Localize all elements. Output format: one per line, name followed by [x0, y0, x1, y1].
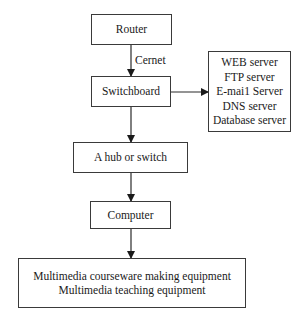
servers-node: WEB server FTP server E-mai1 Server DNS … [208, 51, 291, 132]
router-node: Router [91, 14, 172, 45]
router-label: Router [116, 22, 147, 37]
server-line-email: E-mai1 Server [216, 84, 283, 99]
hub-node: A hub or switch [73, 142, 188, 173]
server-line-dns: DNS server [223, 99, 277, 114]
switchboard-label: Switchboard [102, 84, 160, 99]
cernet-edge-label: Cernet [135, 54, 166, 66]
equipment-line-teaching: Multimedia teaching equipment [59, 283, 206, 298]
server-line-ftp: FTP server [224, 70, 274, 85]
hub-label: A hub or switch [94, 150, 167, 165]
switchboard-node: Switchboard [91, 76, 171, 107]
equipment-line-courseware: Multimedia courseware making equipment [33, 269, 231, 284]
computer-node: Computer [90, 201, 171, 229]
equipment-node: Multimedia courseware making equipment M… [18, 258, 246, 308]
server-line-web: WEB server [221, 55, 278, 70]
computer-label: Computer [108, 208, 154, 223]
server-line-database: Database server [213, 113, 286, 128]
